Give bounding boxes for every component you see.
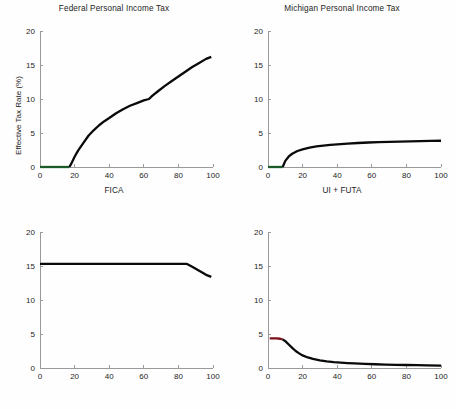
x-tick-label: 20 (298, 372, 307, 381)
series-line (69, 57, 211, 167)
x-tick-label: 0 (266, 171, 271, 180)
series-line (40, 264, 211, 277)
y-tick-label: 0 (259, 163, 264, 172)
y-tick-label: 0 (31, 364, 36, 373)
x-tick-label: 80 (174, 372, 183, 381)
panel-ui-futa-effective-rate: Gross Wages ($ 000's) 020406080100051015… (228, 205, 456, 409)
series-line (283, 141, 441, 167)
x-tick-label: 40 (105, 372, 114, 381)
x-tick-label: 40 (105, 171, 114, 180)
x-tick-label: 60 (139, 372, 148, 381)
y-tick-label: 10 (26, 296, 35, 305)
y-tick-label: 15 (26, 262, 35, 271)
y-tick-label: 15 (254, 262, 263, 271)
x-tick-label: 80 (402, 171, 411, 180)
y-tick-label: 20 (254, 228, 263, 237)
x-tick-label: 100 (206, 372, 220, 381)
x-tick-label: 60 (139, 171, 148, 180)
y-tick-label: 20 (26, 228, 35, 237)
y-tick-label: 5 (31, 330, 36, 339)
y-tick-label: 20 (254, 27, 263, 36)
x-tick-label: 40 (333, 372, 342, 381)
plot-area-top-right: 02040608010005101520 (228, 0, 456, 204)
y-tick-label: 15 (26, 61, 35, 70)
series-line (270, 338, 283, 339)
y-tick-label: 10 (26, 95, 35, 104)
plot-area-bottom-left: 02040608010005101520 (0, 205, 228, 409)
y-tick-label: 15 (254, 61, 263, 70)
x-tick-label: 100 (206, 171, 220, 180)
panel-fica-effective-rate: Effective Tax Rate (%) Gross Wages ($ 00… (0, 205, 228, 409)
y-tick-label: 10 (254, 95, 263, 104)
y-tick-label: 5 (259, 330, 264, 339)
plot-area-top-left: 02040608010005101520 (0, 0, 228, 204)
x-tick-label: 80 (174, 171, 183, 180)
x-tick-label: 60 (367, 171, 376, 180)
series-line (283, 339, 441, 365)
x-tick-label: 20 (298, 171, 307, 180)
panel-federal-personal-income-tax: Federal Personal Income Tax Effective Ta… (0, 0, 228, 204)
x-tick-label: 20 (70, 171, 79, 180)
x-tick-label: 100 (434, 171, 448, 180)
figure-canvas: Federal Personal Income Tax Effective Ta… (0, 0, 456, 409)
y-tick-label: 5 (259, 129, 264, 138)
y-tick-label: 10 (254, 296, 263, 305)
x-tick-label: 0 (38, 372, 43, 381)
plot-area-bottom-right: 02040608010005101520 (228, 205, 456, 409)
y-tick-label: 0 (31, 163, 36, 172)
x-tick-label: 80 (402, 372, 411, 381)
x-tick-label: 100 (434, 372, 448, 381)
x-tick-label: 20 (70, 372, 79, 381)
panel-michigan-personal-income-tax: Michigan Personal Income Tax UI + FUTA 0… (228, 0, 456, 204)
y-tick-label: 20 (26, 27, 35, 36)
y-tick-label: 0 (259, 364, 264, 373)
y-tick-label: 5 (31, 129, 36, 138)
x-tick-label: 0 (38, 171, 43, 180)
x-tick-label: 40 (333, 171, 342, 180)
x-tick-label: 60 (367, 372, 376, 381)
x-tick-label: 0 (266, 372, 271, 381)
